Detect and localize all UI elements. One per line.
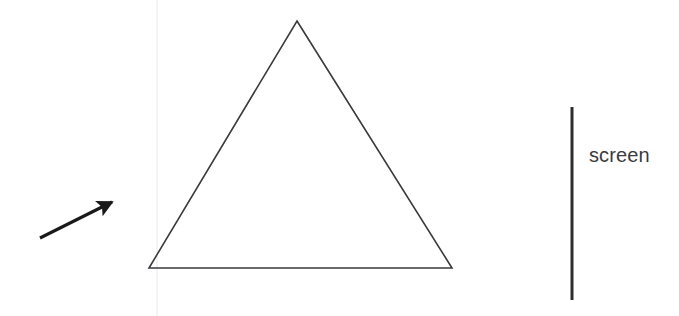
diagram-canvas: screen bbox=[0, 0, 679, 316]
triangular-prism bbox=[149, 21, 452, 268]
ray-diagram-svg bbox=[0, 0, 679, 316]
incoming-light-ray-arrow bbox=[40, 202, 112, 238]
screen-label: screen bbox=[589, 143, 650, 167]
